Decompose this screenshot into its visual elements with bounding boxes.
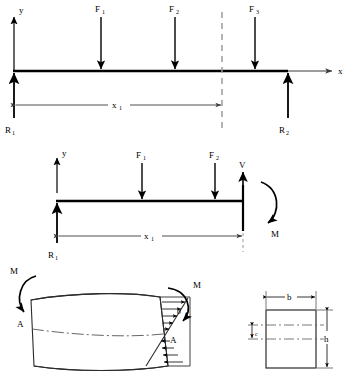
load-F2-label-beam: F — [169, 4, 174, 14]
bent-beam-outline — [31, 294, 168, 371]
load-F3-label-beam: F — [249, 4, 254, 14]
internal-moment-label: M — [271, 229, 279, 239]
load-F1-sub-beam: 1 — [102, 9, 105, 15]
load-F3-sub-beam: 3 — [256, 9, 259, 15]
point-A-right-label: A — [170, 335, 177, 345]
load-F2-sub-section: 2 — [216, 155, 219, 161]
point-A-left-label: A — [17, 319, 24, 329]
reaction-R1-sub-beam: 1 — [12, 130, 15, 136]
applied-moment-right-label: M — [193, 280, 201, 290]
load-F1-label-section: F — [136, 150, 141, 160]
applied-moment-left-label: M — [10, 266, 18, 276]
reaction-R1-label-beam: R — [5, 125, 11, 135]
x-axis-label-beam: x — [338, 66, 343, 76]
dimension-h-label: h — [324, 334, 329, 344]
load-F2-sub-beam: 2 — [176, 9, 179, 15]
load-F1-sub-section: 1 — [143, 155, 146, 161]
engineering-diagram-canvas: y x F 1 F 2 F 3 R 1 — [0, 0, 349, 387]
y-axis-label-section: y — [62, 148, 67, 158]
dimension-b-label: b — [287, 292, 292, 302]
load-F2-label-section: F — [209, 150, 214, 160]
reaction-R1-sub-section: 1 — [55, 255, 58, 261]
figure-root: y x F 1 F 2 F 3 R 1 — [0, 0, 349, 387]
dimension-x1-sub-beam: 1 — [119, 105, 122, 111]
reaction-R2-sub-beam: 2 — [286, 130, 289, 136]
y-axis-label-beam: y — [19, 5, 24, 15]
reaction-R1-label-section: R — [48, 250, 54, 260]
dimension-x1-label-beam: x — [112, 100, 117, 110]
dimension-c-label: c — [255, 331, 258, 337]
reaction-R2-label-beam: R — [279, 125, 285, 135]
load-F1-label-beam: F — [95, 4, 100, 14]
dimension-x1-label-section: x — [144, 231, 149, 241]
dimension-x1-sub-section: 1 — [151, 236, 154, 242]
shear-force-label: V — [239, 160, 246, 170]
